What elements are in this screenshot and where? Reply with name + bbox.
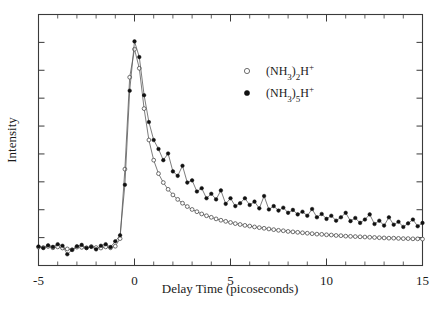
data-point	[281, 229, 285, 233]
chart-background	[0, 0, 442, 314]
data-point	[315, 232, 319, 236]
data-point	[402, 225, 406, 229]
data-point	[325, 217, 329, 221]
data-point	[37, 245, 41, 249]
data-point	[186, 181, 190, 185]
data-point	[200, 186, 204, 190]
data-point	[282, 206, 286, 210]
data-point	[387, 236, 391, 240]
data-point	[171, 170, 175, 174]
data-point	[46, 244, 50, 248]
data-point	[401, 237, 405, 241]
data-point	[205, 214, 209, 218]
data-point	[382, 236, 386, 240]
data-point	[253, 225, 257, 229]
data-point	[330, 214, 334, 218]
data-point	[147, 138, 151, 142]
data-point	[99, 244, 103, 248]
data-point	[229, 221, 233, 225]
data-point	[214, 217, 218, 221]
data-point	[85, 246, 89, 250]
data-point	[123, 183, 127, 187]
data-point	[368, 235, 372, 239]
data-point	[166, 152, 170, 156]
x-tick-label: -5	[33, 273, 44, 288]
data-point	[214, 198, 218, 202]
intensity-vs-delay-time-chart: -5051015 Delay Time (picoseconds) Intens…	[0, 0, 442, 314]
data-point	[272, 204, 276, 208]
data-point	[344, 234, 348, 238]
x-tick-label: 15	[416, 273, 429, 288]
data-point	[349, 234, 353, 238]
data-point	[243, 223, 247, 227]
data-point	[75, 244, 79, 248]
data-point	[219, 189, 223, 193]
data-point	[195, 210, 199, 214]
data-point	[397, 220, 401, 224]
data-point	[406, 222, 410, 226]
data-point	[181, 201, 185, 205]
data-point	[257, 226, 261, 230]
data-point	[392, 236, 396, 240]
legend-marker-filled-circle	[244, 90, 249, 95]
data-point	[181, 164, 185, 168]
data-point	[339, 234, 343, 238]
data-point	[113, 244, 117, 248]
data-point	[209, 215, 213, 219]
data-point	[411, 237, 415, 241]
data-point	[306, 214, 310, 218]
data-point	[166, 187, 170, 191]
data-point	[123, 167, 127, 171]
data-point	[301, 210, 305, 214]
data-point	[411, 218, 415, 222]
data-point	[325, 233, 329, 237]
data-point	[70, 248, 74, 252]
data-point	[234, 204, 238, 208]
data-point	[195, 190, 199, 194]
data-point	[354, 216, 358, 220]
data-point	[310, 207, 314, 211]
data-point	[56, 242, 60, 246]
data-point	[157, 147, 161, 151]
data-point	[161, 181, 165, 185]
data-point	[387, 216, 391, 220]
data-point	[162, 158, 166, 162]
data-point	[301, 231, 305, 235]
data-point	[267, 208, 271, 212]
data-point	[219, 218, 223, 222]
data-point	[377, 236, 381, 240]
data-point	[397, 236, 401, 240]
data-point	[185, 205, 189, 209]
data-point	[368, 213, 372, 217]
data-point	[334, 234, 338, 238]
data-point	[416, 237, 420, 241]
data-point	[382, 224, 386, 228]
data-point	[320, 212, 324, 216]
data-point	[104, 242, 108, 246]
data-point	[176, 197, 180, 201]
data-point	[310, 232, 314, 236]
data-point	[329, 233, 333, 237]
x-axis-label: Delay Time (picoseconds)	[162, 281, 298, 296]
data-point	[296, 230, 300, 234]
data-point	[286, 230, 290, 234]
data-point	[392, 223, 396, 227]
data-point	[176, 174, 180, 178]
data-point	[272, 228, 276, 232]
data-point	[416, 224, 420, 228]
data-point	[406, 237, 410, 241]
data-point	[373, 222, 377, 226]
data-point	[277, 209, 281, 213]
data-point	[205, 196, 209, 200]
data-point	[363, 235, 367, 239]
data-point	[344, 211, 348, 215]
data-point	[291, 208, 295, 212]
data-point	[51, 245, 55, 249]
data-point	[248, 224, 252, 228]
data-point	[90, 245, 94, 249]
data-point	[229, 196, 233, 200]
data-point	[373, 236, 377, 240]
x-tick-label: 0	[131, 273, 138, 288]
data-point	[80, 243, 84, 247]
data-point	[277, 228, 281, 232]
